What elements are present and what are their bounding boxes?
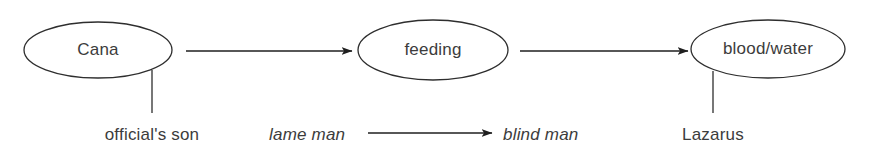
caption-officials-son: official's son — [105, 125, 200, 144]
blood-water-label: blood/water — [723, 39, 813, 58]
node-cana[interactable]: Cana — [24, 22, 172, 78]
node-blood-water[interactable]: blood/water — [691, 20, 845, 78]
diagram-canvas: Cana feeding blood/water official's son … — [0, 0, 869, 153]
caption-lazarus: Lazarus — [682, 125, 744, 144]
caption-lame-man: lame man — [269, 125, 345, 144]
node-feeding[interactable]: feeding — [358, 20, 508, 80]
caption-blind-man: blind man — [503, 125, 579, 144]
cana-label: Cana — [77, 40, 119, 59]
flow-diagram: Cana feeding blood/water official's son … — [0, 0, 869, 153]
feeding-label: feeding — [404, 40, 461, 59]
